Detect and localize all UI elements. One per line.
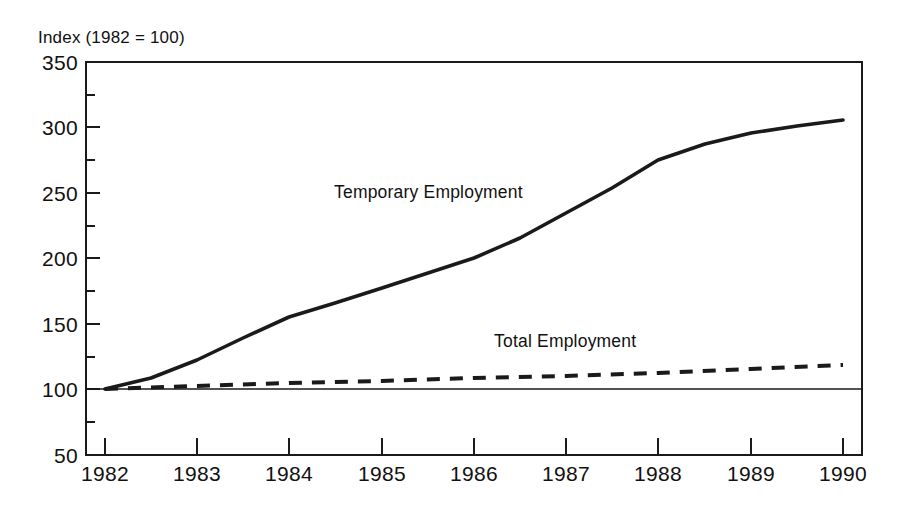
series-line-temporary-employment: [105, 120, 843, 389]
plot-area: [0, 0, 906, 510]
chart-figure: Index (1982 = 100) 350 300 250 200 150 1…: [0, 0, 906, 510]
y-axis-major-ticks: [86, 62, 100, 455]
x-axis-ticks: [105, 438, 843, 455]
series-line-total-employment: [105, 365, 843, 389]
